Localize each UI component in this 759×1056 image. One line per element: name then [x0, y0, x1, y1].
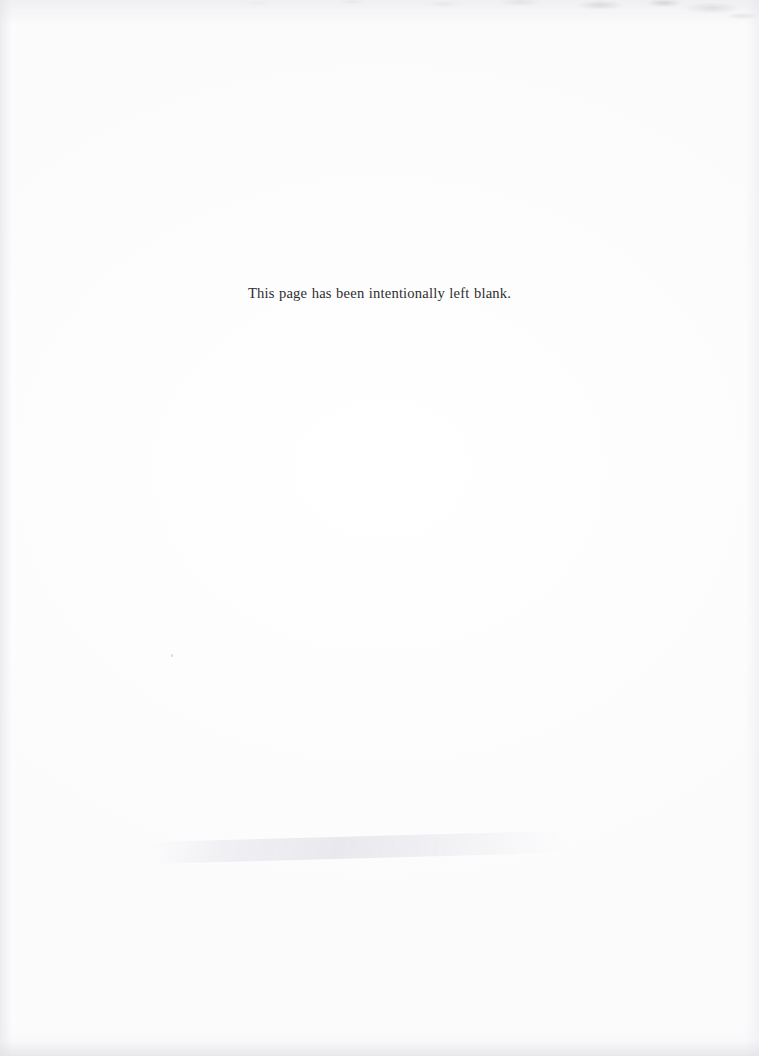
right-edge-shadow-artifact	[745, 0, 759, 1056]
blank-page-notice: This page has been intentionally left bl…	[0, 283, 759, 303]
paper-tone-overlay	[0, 0, 759, 1056]
dust-speck-artifact	[171, 654, 173, 657]
left-edge-shadow-artifact	[0, 0, 12, 1056]
blank-page-notice-text: This page has been intentionally left bl…	[248, 283, 511, 303]
bottom-scan-noise-artifact	[0, 1022, 759, 1056]
scanned-document-page: This page has been intentionally left bl…	[0, 0, 759, 1056]
fold-streak-artifact	[150, 831, 562, 864]
top-scan-noise-artifact	[0, 0, 759, 26]
